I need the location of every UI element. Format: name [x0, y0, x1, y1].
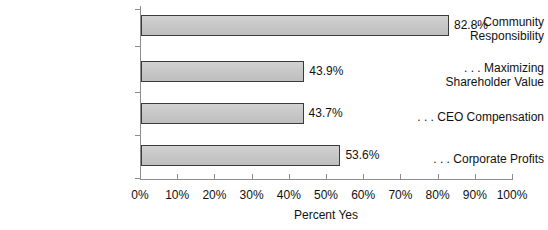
y-axis-tick [135, 46, 141, 47]
x-axis-tick-label: 40% [277, 188, 301, 202]
bar-maximizing-shareholder-value [141, 61, 304, 82]
x-axis-tick [252, 174, 253, 180]
x-axis-tick-label: 20% [202, 188, 226, 202]
y-axis-tick [135, 9, 141, 10]
x-axis-tick-label: 0% [131, 188, 148, 202]
x-axis-tick-label: 30% [240, 188, 264, 202]
x-axis-tick [177, 174, 178, 180]
x-axis-tick-label: 70% [388, 188, 412, 202]
bar-fill [142, 146, 339, 165]
x-axis-tick [363, 174, 364, 180]
x-axis-title: Percent Yes [140, 208, 512, 222]
x-axis-tick [214, 174, 215, 180]
x-axis-tick-label: 50% [314, 188, 338, 202]
x-axis-tick-label: 100% [497, 188, 528, 202]
bar-value-maximizing-shareholder-value: 43.9% [309, 61, 343, 82]
bar-value-ceo-compensation: 43.7% [309, 103, 343, 124]
x-axis-tick [438, 174, 439, 180]
bar-value-community-responsibility: 82.8% [454, 15, 488, 36]
x-axis-tick [140, 174, 141, 180]
bar-value-corporate-profits: 53.6% [345, 145, 379, 166]
bar-fill [142, 62, 303, 81]
x-axis-tick-label: 90% [463, 188, 487, 202]
bar-chart: . . . Community Responsibility . . . Max… [0, 0, 548, 230]
bar-fill [142, 16, 448, 35]
plot-area: 82.8% 43.9% 43.7% 53.6% 0%10%20%30%40%50… [140, 6, 512, 179]
x-axis-tick [512, 174, 513, 180]
x-axis-tick-label: 80% [426, 188, 450, 202]
x-axis-tick [400, 174, 401, 180]
bar-fill [142, 104, 303, 123]
x-axis-tick-label: 60% [351, 188, 375, 202]
y-axis-tick [135, 92, 141, 93]
x-axis-tick [289, 174, 290, 180]
bar-community-responsibility [141, 15, 449, 36]
y-axis-tick [135, 135, 141, 136]
bar-corporate-profits [141, 145, 340, 166]
x-axis-tick [326, 174, 327, 180]
x-axis-tick-label: 10% [165, 188, 189, 202]
bar-ceo-compensation [141, 103, 304, 124]
x-axis-tick [475, 174, 476, 180]
